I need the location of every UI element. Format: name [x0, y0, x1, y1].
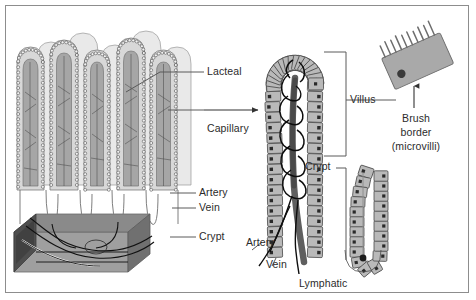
- label-brush-line3: (microvilli): [379, 140, 453, 152]
- label-artery-left: Artery: [199, 186, 228, 198]
- label-capillary: Capillary: [207, 122, 249, 134]
- label-lacteal: Lacteal: [207, 65, 242, 77]
- label-artery-center: Artery: [246, 236, 275, 248]
- figure-root: Lacteal Capillary Artery Vein Crypt Vill…: [0, 0, 476, 300]
- label-vein-center: Vein: [266, 258, 287, 270]
- label-lymphatic: Lymphatic: [299, 277, 347, 289]
- right-panel-brush-cell: [375, 19, 453, 90]
- label-brush-line2: border: [385, 126, 447, 138]
- label-crypt-left: Crypt: [199, 230, 225, 242]
- label-villus: Villus: [350, 93, 376, 105]
- label-crypt-right: Crypt: [305, 160, 331, 172]
- label-brush-line1: Brush: [385, 112, 447, 124]
- left-panel-villi: [14, 31, 191, 272]
- label-vein-left: Vein: [199, 201, 220, 213]
- crypt-bracket: [336, 168, 346, 260]
